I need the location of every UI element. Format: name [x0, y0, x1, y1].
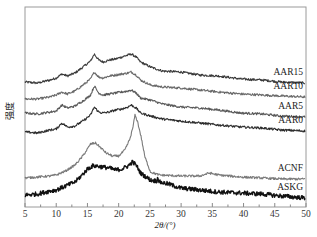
series-line-aar5	[25, 86, 305, 118]
series-label-askg: ASKG	[277, 182, 303, 192]
xrd-chart: 5101520253035404550 AAR15AAR10AAR5AAR0AC…	[0, 0, 317, 237]
series-line-aar15	[25, 54, 305, 84]
x-tick-label: 35	[208, 209, 218, 219]
series-line-aar0	[25, 104, 305, 133]
series-label-aar15: AAR15	[273, 67, 303, 77]
x-tick-label: 20	[114, 209, 124, 219]
series-line-acnf	[25, 114, 305, 180]
series-label-acnf: ACNF	[278, 163, 303, 173]
x-tick-label: 50	[301, 209, 311, 219]
x-tick-label: 15	[83, 209, 93, 219]
series-label-aar0: AAR0	[278, 115, 303, 125]
x-tick-label: 10	[51, 209, 61, 219]
x-tick-label: 40	[239, 209, 249, 219]
series-label-aar5: AAR5	[278, 101, 303, 111]
series-layer	[25, 54, 305, 200]
series-line-askg	[25, 161, 305, 200]
y-axis-title: 强度	[4, 102, 15, 120]
series-label-aar10: AAR10	[273, 81, 303, 91]
x-tick-label: 45	[270, 209, 280, 219]
x-tick-label: 5	[23, 209, 28, 219]
x-tick-label: 30	[176, 209, 186, 219]
x-tick-label: 25	[145, 209, 155, 219]
x-axis: 5101520253035404550	[23, 203, 311, 219]
x-axis-title: 2θ/(°)	[154, 220, 175, 230]
